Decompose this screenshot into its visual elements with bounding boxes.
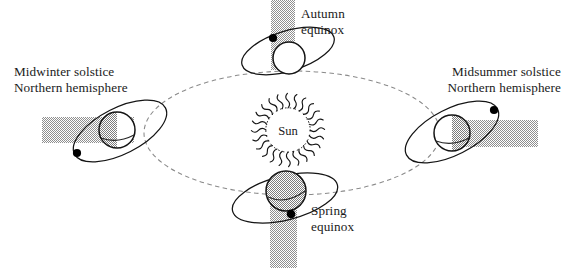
label-midwinter-line1: Midwinter solstice: [14, 64, 114, 79]
label-midsummer-line1: Midsummer solstice: [452, 64, 561, 79]
earth-spring: [266, 171, 306, 211]
node-dot-midsummer: [490, 106, 498, 114]
seasons-diagram-canvas: Sun Midwinter solstice Northern hemisphe…: [0, 0, 565, 269]
node-dot-midwinter: [73, 149, 81, 157]
label-autumn-line2: equinox: [301, 22, 344, 37]
node-dot-spring: [287, 210, 296, 219]
position-midwinter: Midwinter solstice Northern hemisphere: [14, 64, 176, 175]
label-autumn-line1: Autumn: [301, 6, 345, 21]
label-midwinter-line2: Northern hemisphere: [14, 80, 128, 95]
label-spring-line1: Spring: [311, 203, 347, 218]
sun-group: Sun: [251, 93, 324, 166]
seasons-diagram: Sun Midwinter solstice Northern hemisphe…: [0, 0, 565, 269]
position-midsummer: Midsummer solstice Northern hemisphere: [396, 64, 561, 176]
earth-autumn: [273, 42, 305, 74]
node-dot-autumn: [269, 34, 277, 42]
sun-label: Sun: [278, 124, 298, 138]
label-spring-line2: equinox: [311, 219, 354, 234]
label-midsummer-line2: Northern hemisphere: [447, 80, 561, 95]
